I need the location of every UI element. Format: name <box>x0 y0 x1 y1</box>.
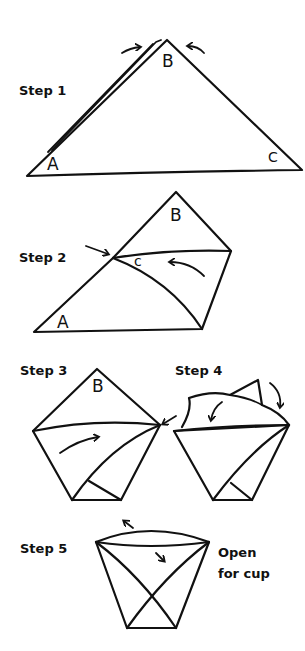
step-2-top-crease <box>113 251 231 258</box>
step-2-arrow-point <box>86 246 108 254</box>
step-1: Step 1 B A C <box>19 40 302 176</box>
step-5-label: Step 5 <box>20 541 67 556</box>
step-1-point-a: A <box>47 154 59 174</box>
step-1-label: Step 1 <box>19 83 66 98</box>
step-1-arrow-right <box>188 46 204 53</box>
step-1-point-c: C <box>268 149 278 165</box>
step-3-arrow-fold <box>60 437 98 453</box>
step-2: Step 2 B c A <box>19 192 231 332</box>
step-3-top-crease <box>33 423 160 431</box>
step-1-arrow-left <box>122 47 140 53</box>
step-4-flap-crease <box>230 395 262 405</box>
step-4-arrow-down-right <box>270 383 280 407</box>
step-3-point-b: B <box>92 376 104 396</box>
step-3-arrow-corner <box>163 416 176 424</box>
step-4-inner-flap <box>231 483 252 500</box>
step-5-rim-back <box>96 531 209 542</box>
step-5-note-line1: Open <box>218 545 256 560</box>
step-3-diagonal-fold <box>72 425 160 500</box>
step-1-fold-edge-2 <box>48 44 153 152</box>
step-3-label: Step 3 <box>20 363 67 378</box>
step-4-diagonal-fold <box>213 425 289 500</box>
step-5: Step 5 Open for cup <box>20 521 270 628</box>
paper-cup-folding-diagram: Step 1 B A C Step 2 B c A Step 3 B Step … <box>0 0 305 651</box>
step-5-note-line2: for cup <box>218 566 270 581</box>
step-4: Step 4 <box>174 363 289 500</box>
step-4-top-flap <box>182 380 289 427</box>
step-2-point-a: A <box>57 312 69 332</box>
step-3: Step 3 B <box>20 363 176 500</box>
step-2-label: Step 2 <box>19 250 66 265</box>
step-5-arrow-open-front <box>156 553 164 561</box>
step-4-arrow-down-left <box>211 402 222 420</box>
step-4-label: Step 4 <box>175 363 222 378</box>
step-2-c-flap-edge <box>113 258 202 329</box>
step-1-fold-edge <box>52 40 161 150</box>
step-3-inner-flap <box>89 481 121 500</box>
step-5-arrow-open-back <box>124 521 133 528</box>
step-5-rim-front <box>96 542 209 546</box>
step-1-point-b: B <box>162 51 174 71</box>
step-2-point-b: B <box>170 205 182 225</box>
step-2-arrow-fold <box>170 262 204 276</box>
step-2-point-c: c <box>134 253 142 269</box>
